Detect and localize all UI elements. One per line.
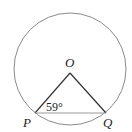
circle-diagram: O P Q 59°: [0, 0, 132, 132]
label-o: O: [65, 55, 75, 70]
label-p: P: [22, 115, 31, 130]
segment-oq: [70, 73, 106, 113]
angle-label: 59°: [46, 100, 63, 114]
label-q: Q: [103, 115, 113, 130]
